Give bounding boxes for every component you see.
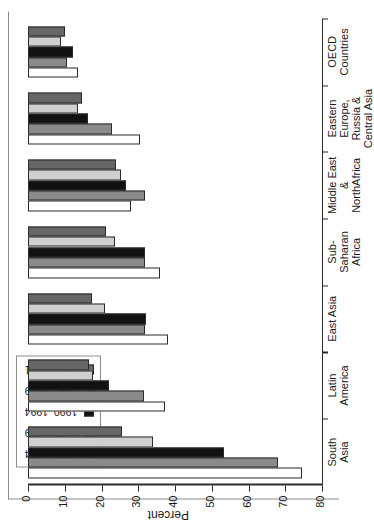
value-tick-label: 40 xyxy=(167,495,179,521)
bar xyxy=(28,370,93,380)
bar xyxy=(28,103,78,113)
bar xyxy=(28,236,115,246)
bar xyxy=(28,447,224,457)
value-tick xyxy=(65,485,66,491)
bar xyxy=(28,92,82,102)
category-label-line: Asia xyxy=(338,418,350,485)
category-label-line: Middle East xyxy=(326,151,338,218)
bar xyxy=(28,36,61,46)
value-tick xyxy=(249,485,250,491)
value-tick xyxy=(212,485,213,491)
value-tick xyxy=(322,485,323,491)
bar xyxy=(28,57,67,67)
bar xyxy=(28,390,144,400)
category-label: East Asia xyxy=(326,285,338,352)
value-tick xyxy=(138,485,139,491)
bar xyxy=(28,334,168,344)
category-label: Sub-SaharanAfrica xyxy=(326,218,362,285)
category-label-line: Russia & xyxy=(350,85,362,152)
bar xyxy=(28,67,78,77)
bar xyxy=(28,169,121,179)
value-tick xyxy=(102,485,103,491)
bar xyxy=(28,293,92,303)
bar xyxy=(28,267,160,277)
category-label-line: Africa xyxy=(350,218,362,285)
value-tick-label: 30 xyxy=(130,495,142,521)
bar xyxy=(28,257,145,267)
value-tick xyxy=(28,485,29,491)
bar xyxy=(28,247,145,257)
bar xyxy=(28,123,112,133)
value-tick-label: 80 xyxy=(314,495,326,521)
category-label-line: Central Asia xyxy=(362,85,374,152)
bar xyxy=(28,159,116,169)
bar xyxy=(28,226,106,236)
bar xyxy=(28,380,109,390)
bar xyxy=(28,303,105,313)
category-label: Middle East&NorthAfrica xyxy=(326,151,362,218)
category-label: OECDCountries xyxy=(326,18,350,85)
bar xyxy=(28,467,302,477)
bar xyxy=(28,134,140,144)
value-tick-label: 0 xyxy=(20,495,32,521)
category-label-line: NorthAfrica xyxy=(350,151,362,218)
category-label-line: Sub- xyxy=(326,218,338,285)
value-tick xyxy=(175,485,176,491)
category-label-line: America xyxy=(338,352,350,419)
category-label-line: & xyxy=(338,151,350,218)
category-label-line: Europe, xyxy=(338,85,350,152)
bar xyxy=(28,324,145,334)
bar xyxy=(28,200,131,210)
category-label: SouthAsia xyxy=(326,418,350,485)
bar xyxy=(28,26,65,36)
value-tick-label: 70 xyxy=(277,495,289,521)
category-label-line: Latin xyxy=(326,352,338,419)
bar xyxy=(28,180,126,190)
category-label: LatinAmerica xyxy=(326,352,350,419)
value-tick-label: 20 xyxy=(94,495,106,521)
value-tick-label: 50 xyxy=(204,495,216,521)
category-label-line: East Asia xyxy=(326,285,338,352)
bar xyxy=(28,359,89,369)
bar xyxy=(28,46,73,56)
category-label-line: Eastern xyxy=(326,85,338,152)
category-label-line: OECD xyxy=(326,18,338,85)
category-label-line: South xyxy=(326,418,338,485)
bar xyxy=(28,457,278,467)
bar xyxy=(28,426,122,436)
bar xyxy=(28,190,145,200)
value-tick xyxy=(285,485,286,491)
bar xyxy=(28,401,165,411)
category-label-line: Countries xyxy=(338,18,350,85)
bar xyxy=(28,313,146,323)
value-tick-label: 10 xyxy=(57,495,69,521)
bar xyxy=(28,436,153,446)
category-label-line: Saharan xyxy=(338,218,350,285)
value-tick-label: 60 xyxy=(241,495,253,521)
category-label: EasternEurope,Russia &Central Asia xyxy=(326,85,374,152)
bar xyxy=(28,113,88,123)
